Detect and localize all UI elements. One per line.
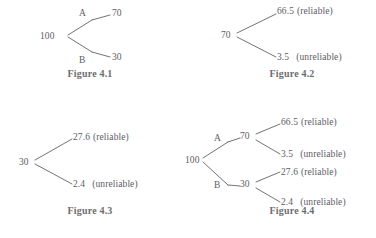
figure-4-4-leaf-b-reliable-value: 27.6: [281, 167, 298, 177]
figure-4-4-node-a-value: 70: [240, 131, 250, 141]
figure-4-2-leaf-reliable-value: 66.5: [277, 6, 294, 16]
figure-4-3-leaf-unreliable-value: 2.4: [73, 179, 85, 189]
edge-b-to-reliable: [256, 172, 280, 182]
figure-4-4-leaf-b-reliable-qualifier: (reliable): [298, 167, 337, 177]
edge-b-to-unreliable: [256, 188, 280, 202]
figure-4-1-branch-label-a: A: [79, 8, 86, 18]
figure-4-3-root-label: 30: [19, 157, 29, 167]
figure-4-4-branch-label-a: A: [214, 133, 221, 143]
edge-b-stub: [92, 52, 110, 57]
edge-root-to-a: [68, 20, 92, 35]
figure-4-4-leaf-b-reliable: 27.6(reliable): [281, 167, 337, 177]
edge-a-to-reliable: [256, 124, 280, 134]
edge-root-to-unreliable: [35, 164, 72, 184]
edge-root-to-a: [203, 142, 228, 158]
edge-root-to-reliable: [35, 139, 72, 160]
figure-4-1-leaf-value-a: 70: [112, 8, 122, 18]
edge-a-stub: [92, 15, 110, 20]
figure-4-4-caption: Figure 4.4: [198, 205, 376, 216]
figure-4-4-leaf-a-unreliable: 3.5(unreliable): [281, 149, 346, 159]
figure-4-4-leaf-a-reliable-value: 66.5: [281, 117, 298, 127]
figure-4-2: 70 66.5(reliable) 3.5(unreliable) Figure…: [188, 0, 376, 100]
figure-4-3-leaf-unreliable: 2.4(unreliable): [73, 179, 138, 189]
edge-root-to-reliable: [237, 14, 276, 33]
figure-4-1-caption: Figure 4.1: [0, 68, 184, 79]
figure-4-4-root-label: 100: [185, 155, 200, 165]
figure-4-3-leaf-unreliable-qualifier: (unreliable): [85, 179, 138, 189]
figure-4-3-leaf-reliable-qualifier: (reliable): [90, 132, 129, 142]
figure-4-3: 30 27.6(reliable) 2.4(unreliable) Figure…: [0, 119, 188, 238]
figure-sheet: 100 A 70 B 30 Figure 4.1 70 66.5(reliabl…: [0, 0, 376, 238]
edge-b-stub: [228, 185, 240, 186]
figure-4-2-root-label: 70: [221, 30, 231, 40]
figure-4-1-leaf-value-b: 30: [112, 52, 122, 62]
figure-4-1-branch-label-b: B: [79, 55, 85, 65]
edge-root-to-b: [68, 37, 92, 52]
figure-4-1-root-label: 100: [40, 31, 55, 41]
figure-4-4-branch-label-b: B: [214, 180, 220, 190]
figure-4-4-leaf-a-unreliable-qualifier: (unreliable): [293, 149, 346, 159]
figure-4-3-caption: Figure 4.3: [0, 205, 184, 216]
figure-4-2-leaf-unreliable-qualifier: (unreliable): [289, 52, 342, 62]
edge-a-to-unreliable: [256, 140, 280, 154]
figure-4-2-leaf-unreliable: 3.5(unreliable): [277, 52, 342, 62]
figure-4-4: 100 A 70 B 30 66.5(reliable) 3.5(unrelia…: [188, 119, 376, 238]
figure-4-1-edges: [0, 0, 188, 100]
figure-4-2-leaf-reliable: 66.5(reliable): [277, 6, 333, 16]
figure-4-4-leaf-a-reliable: 66.5(reliable): [281, 117, 337, 127]
figure-4-3-leaf-reliable: 27.6(reliable): [73, 132, 129, 142]
figure-4-4-leaf-a-reliable-qualifier: (reliable): [298, 117, 337, 127]
figure-4-2-leaf-unreliable-value: 3.5: [277, 52, 289, 62]
edge-root-to-unreliable: [237, 37, 276, 57]
figure-4-4-node-b-value: 30: [240, 179, 250, 189]
figure-4-1: 100 A 70 B 30 Figure 4.1: [0, 0, 188, 100]
figure-4-4-leaf-a-unreliable-value: 3.5: [281, 149, 293, 159]
figure-4-3-leaf-reliable-value: 27.6: [73, 132, 90, 142]
figure-4-2-leaf-reliable-qualifier: (reliable): [294, 6, 333, 16]
edge-a-stub: [228, 138, 240, 142]
figure-4-2-caption: Figure 4.2: [198, 68, 376, 79]
